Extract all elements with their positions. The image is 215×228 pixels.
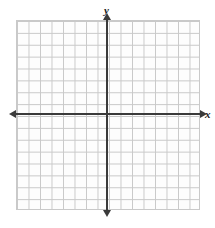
x-axis-left-arrowhead-icon xyxy=(9,110,16,118)
coordinate-plane-figure: y x xyxy=(0,0,215,228)
y-axis-label: y xyxy=(104,5,109,16)
x-axis-label: x xyxy=(205,109,211,120)
y-axis-line xyxy=(106,20,108,210)
graph-grid xyxy=(16,20,200,210)
y-axis-bottom-arrowhead-icon xyxy=(103,210,111,217)
x-axis-line xyxy=(16,113,200,115)
